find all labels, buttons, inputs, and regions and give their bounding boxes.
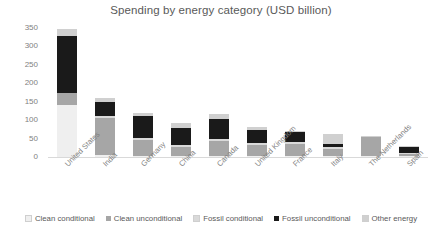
legend-item[interactable]: Clean conditional <box>25 214 95 223</box>
bar-series-layer <box>48 28 428 157</box>
legend-item[interactable]: Fossil unconditional <box>274 214 350 223</box>
legend-swatch-icon <box>362 215 369 222</box>
y-axis-tick-label: 350 <box>25 23 38 33</box>
legend-item[interactable]: Clean unconditional <box>106 214 183 223</box>
y-axis-tick-label: 200 <box>25 78 38 88</box>
x-axis-category-labels: United StatesIndiaGermanyChinaCanadaUnit… <box>48 158 428 214</box>
y-axis-tick-label: 50 <box>29 134 38 144</box>
bar-segment[interactable] <box>57 93 77 106</box>
legend-swatch-icon <box>25 215 32 222</box>
bar-stack[interactable] <box>95 98 115 157</box>
bar-segment[interactable] <box>247 130 267 144</box>
legend-swatch-icon <box>106 216 111 221</box>
legend-label: Clean conditional <box>35 214 95 223</box>
bar-segment[interactable] <box>95 102 115 116</box>
legend-label: Fossil conditional <box>203 214 263 223</box>
plot-area <box>48 28 428 157</box>
legend-label: Other energy <box>372 214 418 223</box>
chart-container: Spending by energy category (USD billion… <box>0 0 442 233</box>
bar-stack[interactable] <box>57 29 77 157</box>
legend-item[interactable]: Other energy <box>362 214 418 223</box>
bar-segment[interactable] <box>323 134 343 144</box>
bar-segment[interactable] <box>209 119 229 139</box>
y-axis-tick-label: 0 <box>34 152 38 162</box>
bar-segment[interactable] <box>171 128 191 146</box>
y-axis-tick-label: 300 <box>25 41 38 51</box>
legend-label: Clean unconditional <box>114 214 183 223</box>
legend-swatch-icon <box>274 216 279 221</box>
bar-segment[interactable] <box>57 29 77 36</box>
bar-segment[interactable] <box>133 116 153 137</box>
chart-legend: Clean conditionalClean unconditionalFoss… <box>0 214 442 223</box>
y-axis-tick-label: 100 <box>25 115 38 125</box>
legend-swatch-icon <box>193 215 200 222</box>
bar-segment[interactable] <box>57 36 77 92</box>
chart-title: Spending by energy category (USD billion… <box>0 4 442 16</box>
y-axis-tick-label: 250 <box>25 60 38 70</box>
y-axis-tick-label: 150 <box>25 97 38 107</box>
y-axis-tick-labels: 050100150200250300350 <box>0 22 44 164</box>
legend-label: Fossil unconditional <box>282 214 350 223</box>
legend-item[interactable]: Fossil conditional <box>193 214 263 223</box>
